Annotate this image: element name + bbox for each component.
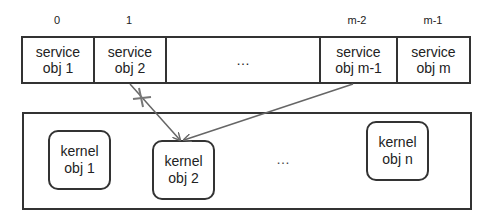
service-object-array: service obj 1 service obj 2 … service ob… <box>21 36 471 84</box>
index-label-1: 1 <box>109 14 149 26</box>
kernel-obj-1-line2: obj 1 <box>64 160 94 177</box>
service-obj-m-line1: service <box>411 44 455 60</box>
kernel-obj-2-line1: kernel <box>164 153 202 170</box>
service-obj-m-1-line1: service <box>336 44 380 60</box>
kernel-obj-n: kernel obj n <box>366 121 429 181</box>
service-ellipsis: … <box>236 52 250 68</box>
kernel-obj-n-line2: obj n <box>382 151 412 168</box>
service-ellipsis-cell: … <box>167 38 321 82</box>
kernel-ellipsis: … <box>276 151 291 167</box>
kernel-obj-1-line1: kernel <box>60 143 98 160</box>
index-label-0: 0 <box>37 14 77 26</box>
kernel-obj-1: kernel obj 1 <box>48 130 111 190</box>
index-label-m-2: m-2 <box>337 14 377 26</box>
kernel-obj-n-line1: kernel <box>378 134 416 151</box>
kernel-obj-2: kernel obj 2 <box>152 140 215 200</box>
service-obj-1-cell: service obj 1 <box>23 38 95 82</box>
kernel-obj-2-line2: obj 2 <box>168 170 198 187</box>
service-obj-1-line1: service <box>36 44 80 60</box>
service-obj-2-line1: service <box>108 44 152 60</box>
service-obj-m-line2: obj m <box>416 60 450 76</box>
service-obj-m-cell: service obj m <box>398 38 469 82</box>
index-label-m-1: m-1 <box>413 14 453 26</box>
cross-mark-icon <box>133 88 151 107</box>
service-obj-2-line2: obj 2 <box>115 60 145 76</box>
service-obj-m-1-line2: obj m-1 <box>335 60 382 76</box>
service-obj-1-line2: obj 1 <box>43 60 73 76</box>
service-obj-m-1-cell: service obj m-1 <box>321 38 398 82</box>
service-obj-2-cell: service obj 2 <box>95 38 167 82</box>
